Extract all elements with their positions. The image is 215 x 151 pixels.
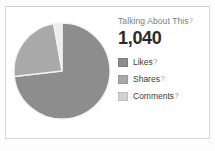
legend-label-shares: Shares?: [133, 74, 165, 84]
pie-chart-svg: [12, 19, 114, 123]
card-title-row: Talking About This?: [118, 15, 210, 27]
legend-label-comments: Comments?: [133, 91, 179, 101]
legend-swatch-shares: [118, 75, 128, 84]
insights-card: Talking About This? 1,040 Likes? Shares?…: [5, 6, 210, 139]
legend-text: Comments: [133, 91, 174, 101]
screenshot-root: Talking About This? 1,040 Likes? Shares?…: [0, 0, 215, 151]
legend-help-icon[interactable]: ?: [160, 74, 164, 83]
legend-label-likes: Likes?: [133, 57, 158, 67]
legend-help-icon[interactable]: ?: [175, 91, 179, 100]
legend-swatch-comments: [118, 92, 128, 101]
legend-item[interactable]: Comments?: [118, 89, 210, 103]
card-value: 1,040: [118, 28, 210, 48]
card-inner: Talking About This? 1,040 Likes? Shares?…: [6, 7, 209, 138]
legend-text: Likes: [133, 57, 153, 67]
legend-help-icon[interactable]: ?: [153, 57, 157, 66]
pie-chart: [12, 19, 114, 123]
chart-legend: Likes? Shares? Comments?: [118, 55, 210, 103]
title-help-icon[interactable]: ?: [189, 16, 193, 25]
info-panel: Talking About This? 1,040 Likes? Shares?…: [118, 15, 210, 106]
legend-item[interactable]: Shares?: [118, 72, 210, 86]
card-title: Talking About This: [118, 16, 189, 26]
legend-item[interactable]: Likes?: [118, 55, 210, 69]
legend-swatch-likes: [118, 58, 128, 67]
pie-slices: [14, 23, 110, 119]
legend-text: Shares: [133, 74, 160, 84]
